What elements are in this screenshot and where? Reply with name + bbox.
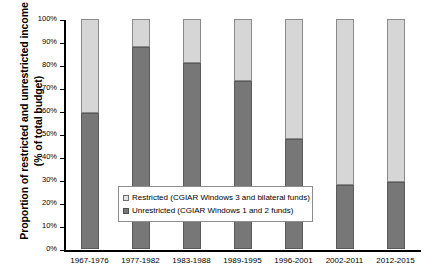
tick-mark	[60, 135, 65, 136]
y-tick-label: 100%	[23, 14, 57, 23]
bar-segment-unrestricted[interactable]	[336, 185, 354, 249]
bar-group[interactable]	[387, 19, 405, 249]
legend-item-unrestricted: Unrestricted (CGIAR Windows 1 and 2 fund…	[123, 204, 307, 217]
restricted-swatch-icon	[123, 195, 129, 201]
y-tick-label: 30%	[23, 175, 57, 184]
legend-item-restricted: Restricted (CGIAR Windows 3 and bilatera…	[123, 191, 307, 204]
bar-segment-restricted[interactable]	[234, 19, 252, 81]
y-tick-label: 20%	[23, 198, 57, 207]
tick-mark	[60, 66, 65, 67]
y-tick-label: 0%	[23, 244, 57, 253]
bar-segment-restricted[interactable]	[387, 19, 405, 182]
chart-legend: Restricted (CGIAR Windows 3 and bilatera…	[118, 186, 313, 222]
unrestricted-swatch-icon	[123, 208, 129, 214]
bar-segment-restricted[interactable]	[183, 19, 201, 63]
tick-mark	[60, 227, 65, 228]
bar-segment-restricted[interactable]	[285, 19, 303, 139]
tick-mark	[60, 112, 65, 113]
tick-mark	[60, 158, 65, 159]
tick-mark	[60, 204, 65, 205]
x-axis-label: 2012-2015	[366, 256, 426, 265]
x-axis-line	[64, 250, 421, 252]
tick-mark	[60, 181, 65, 182]
y-tick-label: 60%	[23, 106, 57, 115]
stacked-bar-chart: Proportion of restricted and unrestricte…	[0, 0, 431, 280]
bar-segment-unrestricted[interactable]	[234, 81, 252, 249]
y-tick-label: 90%	[23, 37, 57, 46]
bar-segment-unrestricted[interactable]	[387, 182, 405, 249]
y-tick-label: 50%	[23, 129, 57, 138]
bar-group[interactable]	[336, 19, 354, 249]
y-tick-label: 70%	[23, 83, 57, 92]
y-tick-label: 80%	[23, 60, 57, 69]
bar-group[interactable]	[81, 19, 99, 249]
tick-mark	[60, 250, 65, 251]
bar-segment-unrestricted[interactable]	[81, 113, 99, 249]
bar-segment-restricted[interactable]	[81, 19, 99, 113]
y-tick-label: 40%	[23, 152, 57, 161]
legend-label-restricted: Restricted (CGIAR Windows 3 and bilatera…	[132, 193, 310, 203]
bar-segment-restricted[interactable]	[336, 19, 354, 185]
tick-mark	[60, 20, 65, 21]
tick-mark	[60, 43, 65, 44]
y-tick-label: 10%	[23, 221, 57, 230]
tick-mark	[60, 89, 65, 90]
bar-segment-restricted[interactable]	[132, 19, 150, 47]
legend-label-unrestricted: Unrestricted (CGIAR Windows 1 and 2 fund…	[132, 206, 293, 216]
